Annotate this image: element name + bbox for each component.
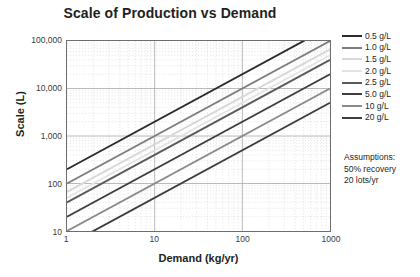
- y-tick-label: 100: [6, 179, 62, 189]
- legend-swatch-icon: [342, 82, 362, 84]
- plot-svg: [67, 41, 330, 231]
- assumptions-title: Assumptions:: [344, 152, 420, 164]
- legend-label: 2.0 g/L: [365, 67, 391, 76]
- assumptions-line-1: 50% recovery: [344, 164, 420, 176]
- assumptions-note: Assumptions: 50% recovery 20 lots/yr: [344, 152, 420, 187]
- legend-item: 10 g/L: [340, 100, 416, 112]
- legend-item: 5.0 g/L: [340, 88, 416, 100]
- x-axis-label: Demand (kg/yr): [66, 252, 331, 264]
- series-line-6: [67, 89, 330, 232]
- series-line-4: [67, 60, 330, 203]
- y-tick-label: 100,000: [6, 35, 62, 45]
- legend-swatch-icon: [342, 58, 362, 60]
- y-tick-label: 10,000: [6, 83, 62, 93]
- legend-label: 5.0 g/L: [365, 90, 391, 99]
- legend-item: 20 g/L: [340, 112, 416, 124]
- legend-label: 1.0 g/L: [365, 43, 391, 52]
- legend-label: 1.5 g/L: [365, 55, 391, 64]
- legend-swatch-icon: [342, 105, 362, 107]
- assumptions-line-2: 20 lots/yr: [344, 175, 420, 187]
- legend-swatch-icon: [342, 47, 362, 49]
- x-tick-label: 1000: [306, 234, 356, 244]
- x-tick-label: 100: [218, 234, 268, 244]
- legend-item: 0.5 g/L: [340, 30, 416, 42]
- plot-area: [66, 40, 331, 232]
- legend-label: 0.5 g/L: [365, 32, 391, 41]
- y-tick-label: 1,000: [6, 131, 62, 141]
- legend-label: 20 g/L: [365, 113, 389, 122]
- series-line-1: [67, 41, 330, 184]
- chart-legend: 0.5 g/L1.0 g/L1.5 g/L2.0 g/L2.5 g/L5.0 g…: [340, 28, 416, 127]
- x-tick-label: 1: [41, 234, 91, 244]
- legend-swatch-icon: [342, 93, 362, 95]
- legend-label: 10 g/L: [365, 102, 389, 111]
- series-line-3: [67, 55, 330, 198]
- legend-item: 1.5 g/L: [340, 53, 416, 65]
- legend-item: 2.0 g/L: [340, 65, 416, 77]
- legend-swatch-icon: [342, 70, 362, 72]
- legend-label: 2.5 g/L: [365, 78, 391, 87]
- series-line-0: [67, 41, 330, 169]
- legend-swatch-icon: [342, 117, 362, 119]
- legend-item: 1.0 g/L: [340, 42, 416, 54]
- chart-container: Scale of Production vs Demand Scale (L) …: [0, 0, 420, 277]
- legend-item: 2.5 g/L: [340, 77, 416, 89]
- legend-swatch-icon: [342, 35, 362, 37]
- series-line-7: [67, 103, 330, 231]
- y-axis-ticks: 101001,00010,000100,000: [0, 40, 62, 232]
- x-tick-label: 10: [129, 234, 179, 244]
- chart-title: Scale of Production vs Demand: [0, 5, 340, 21]
- x-axis-ticks: 1101001000: [66, 234, 331, 248]
- series-line-2: [67, 49, 330, 192]
